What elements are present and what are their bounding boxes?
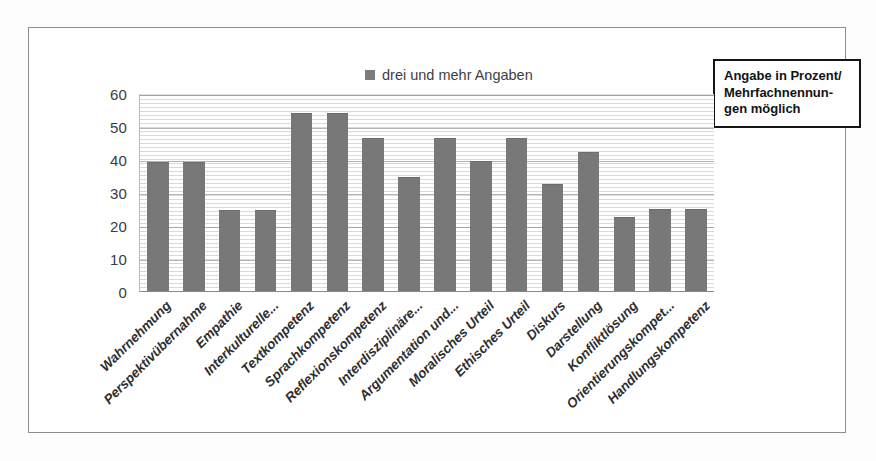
bar[interactable] xyxy=(398,177,420,291)
y-axis-tick-label: 30 xyxy=(110,185,127,202)
bar-series xyxy=(140,95,714,291)
bar-slot xyxy=(391,95,427,291)
y-axis-tick-label: 60 xyxy=(110,86,127,103)
y-axis: 6050403020100 xyxy=(81,94,133,292)
bar[interactable] xyxy=(649,209,671,292)
bar-slot xyxy=(140,95,176,291)
bar[interactable] xyxy=(470,161,492,291)
y-axis-tick-label: 50 xyxy=(110,119,127,136)
bar-slot xyxy=(463,95,499,291)
bar-slot xyxy=(427,95,463,291)
legend-series-label: drei und mehr Angaben xyxy=(382,67,533,83)
x-axis-labels: WahrnehmungPerspektivübernahmeEmpathieIn… xyxy=(139,292,714,442)
bar-slot xyxy=(355,95,391,291)
y-axis-tick-label: 20 xyxy=(110,218,127,235)
chart-page: drei und mehr Angaben Angabe in Prozent/… xyxy=(0,0,876,461)
bar[interactable] xyxy=(291,113,313,291)
y-axis-tick-label: 0 xyxy=(118,284,127,301)
bar-slot xyxy=(642,95,678,291)
bar-slot xyxy=(571,95,607,291)
note-line: Angabe in Prozent/ xyxy=(724,68,851,85)
bar[interactable] xyxy=(578,152,600,291)
bar-slot xyxy=(499,95,535,291)
bar[interactable] xyxy=(362,138,384,291)
bar[interactable] xyxy=(255,210,277,291)
y-axis-tick-label: 40 xyxy=(110,152,127,169)
bar[interactable] xyxy=(685,209,707,292)
bar-slot xyxy=(212,95,248,291)
bar-slot xyxy=(319,95,355,291)
bar[interactable] xyxy=(542,184,564,291)
note-line: gen möglich xyxy=(724,101,851,118)
note-line: Mehrfachnennun- xyxy=(724,85,851,102)
bar[interactable] xyxy=(147,162,169,291)
bar[interactable] xyxy=(183,162,205,291)
bar-slot xyxy=(678,95,714,291)
bar-slot xyxy=(176,95,212,291)
y-axis-tick-label: 10 xyxy=(110,251,127,268)
bar-slot xyxy=(248,95,284,291)
bar[interactable] xyxy=(327,113,349,291)
bar[interactable] xyxy=(614,217,636,291)
bar[interactable] xyxy=(434,138,456,291)
note-box: Angabe in Prozent/ Mehrfachnennun- gen m… xyxy=(713,59,861,128)
figure-frame: drei und mehr Angaben Angabe in Prozent/… xyxy=(28,27,846,433)
chart-legend: drei und mehr Angaben xyxy=(365,67,533,83)
bar-slot xyxy=(284,95,320,291)
bar[interactable] xyxy=(506,138,528,291)
bar[interactable] xyxy=(219,210,241,291)
legend-swatch-square-icon xyxy=(365,70,375,80)
plot-area xyxy=(139,94,714,292)
bar-slot xyxy=(535,95,571,291)
bar-slot xyxy=(606,95,642,291)
